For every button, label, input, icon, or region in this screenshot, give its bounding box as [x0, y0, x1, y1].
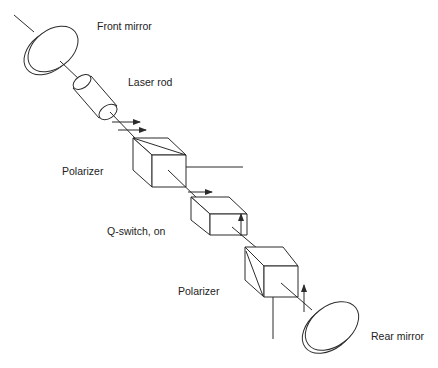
- rear-mirror-label: Rear mirror: [371, 331, 424, 342]
- beam-segment: [110, 112, 135, 138]
- front-mirror: [15, 17, 87, 84]
- front-mirror-label: Front mirror: [97, 21, 152, 32]
- horizontal-polarization-arrows: [112, 122, 146, 130]
- laser-rod-label: Laser rod: [128, 77, 172, 88]
- polarizer-1-label: Polarizer: [62, 166, 103, 177]
- output-beam: [14, 15, 34, 32]
- polarizer-2-cube: [245, 247, 298, 297]
- laser-cavity-diagram: Front mirror Laser rod Polarizer Q-switc…: [0, 0, 438, 368]
- q-switch-label: Q-switch, on: [107, 226, 165, 237]
- q-switch-cube: [191, 197, 247, 235]
- polarizer-2-label: Polarizer: [178, 286, 219, 297]
